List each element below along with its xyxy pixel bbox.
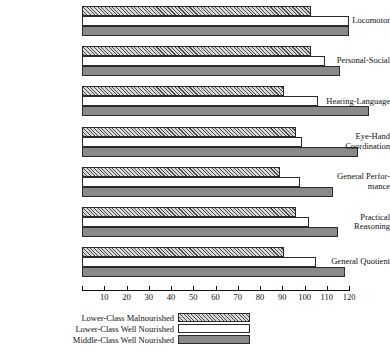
bar-group [82,127,349,157]
bar [82,207,296,217]
x-axis-tick [327,286,328,291]
legend-swatch-dark-icon [178,335,250,344]
x-axis-tick [305,286,306,291]
x-axis-tick-label: 120 [334,292,364,302]
bar-group [82,46,349,76]
bar [82,227,338,237]
category-label: Hearing-Language [312,97,390,107]
legend-label: Lower-Class Malnourished [0,313,174,323]
bar-group [82,207,349,237]
bar [82,247,284,257]
legend-swatch-hatch-icon [178,313,250,322]
bar [82,257,316,267]
category-label-line: Hearing-Language [312,97,390,107]
bar [82,46,311,56]
legend-item: Lower-Class Well Nourished [0,324,390,334]
x-axis-tick [127,286,128,291]
bar-group [82,247,349,277]
bar [82,167,280,177]
x-axis-tick [238,286,239,291]
category-label: Locomotor [312,16,390,26]
bar [82,217,309,227]
bar-group [82,167,349,197]
chart-legend: Lower-Class Malnourished Lower-Class Wel… [0,313,390,347]
x-axis-tick [171,286,172,291]
category-label-line: General Quotient [312,257,390,267]
bar [82,86,284,96]
bar [82,6,311,16]
category-label-line: mance [312,182,390,192]
category-label: Eye-HandCoordination [312,132,390,151]
x-axis-tick [104,286,105,291]
bar [82,177,300,187]
x-axis-tick-origin [82,286,83,291]
category-label-line: Locomotor [312,16,390,26]
category-label: General Perfor-mance [312,172,390,191]
category-label-line: Coordination [312,142,390,152]
x-axis-tick [193,286,194,291]
category-label: Personal-Social [312,56,390,66]
bar [82,26,349,36]
x-axis-tick [349,286,350,291]
bar [82,137,302,147]
bar [82,16,349,26]
bar [82,187,333,197]
x-axis-tick [149,286,150,291]
bar [82,56,325,66]
category-label: PracticalReasoning [312,213,390,232]
x-axis-tick [282,286,283,291]
legend-item: Middle-Class Well Nourished [0,335,390,345]
legend-label: Middle-Class Well Nourished [0,335,174,345]
category-label: General Quotient [312,257,390,267]
legend-label: Lower-Class Well Nourished [0,324,174,334]
category-label-line: Personal-Social [312,56,390,66]
category-label-line: Reasoning [312,222,390,232]
legend-swatch-white-icon [178,324,250,333]
grouped-bar-chart: 102030405060708090100110120 LocomotorPer… [0,0,390,353]
bar [82,96,318,106]
bar [82,66,340,76]
bar [82,267,345,277]
x-axis-tick [260,286,261,291]
bar [82,127,296,137]
bar-group [82,86,349,116]
legend-item: Lower-Class Malnourished [0,313,390,323]
x-axis-tick [216,286,217,291]
bar [82,106,369,116]
bar-group [82,6,349,36]
